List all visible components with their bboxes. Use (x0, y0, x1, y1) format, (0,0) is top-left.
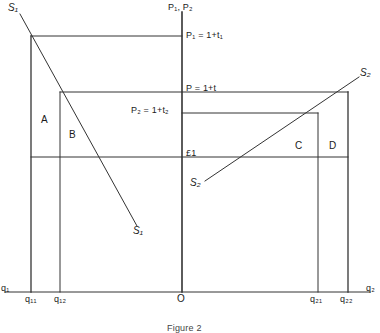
quantity-label-q1: q₁ (1, 284, 9, 293)
region-label-d: D (329, 141, 337, 151)
quantity-label-q12: q₁₂ (54, 295, 66, 304)
origin-label: O (177, 294, 185, 304)
price-label-p1: P₁ = 1+t₁ (186, 31, 223, 40)
supply-curve-s2 (205, 77, 359, 181)
region-label-c: C (295, 141, 303, 151)
price-label-one-pound: £1 (186, 149, 196, 158)
quantity-label-q21: q₂₁ (310, 295, 322, 304)
curve-label-s2-top: S₂ (360, 68, 371, 78)
price-label-p2: P₂ = 1+t₂ (131, 106, 169, 115)
quantity-label-q11: q₁₁ (25, 295, 37, 304)
curve-label-s1-top: S₁ (8, 3, 18, 13)
region-label-b: B (69, 130, 76, 140)
figure-container: P₁, P₂ P₁ = 1+t₁ P = 1+t P₂ = 1+t₂ £1 S₁… (0, 0, 380, 333)
diagram-canvas (0, 0, 380, 333)
figure-caption: Figure 2 (167, 324, 202, 333)
quantity-label-q2: q₂ (366, 284, 375, 293)
region-label-a: A (41, 115, 48, 125)
curve-label-s2-bottom: S₂ (190, 178, 201, 188)
quantity-label-q22: q₂₂ (340, 295, 353, 304)
supply-curve-s1 (20, 14, 137, 226)
curve-label-s1-bottom: S₁ (133, 226, 143, 236)
vertical-axis-label: P₁, P₂ (168, 3, 193, 12)
price-label-p: P = 1+t (186, 84, 216, 93)
